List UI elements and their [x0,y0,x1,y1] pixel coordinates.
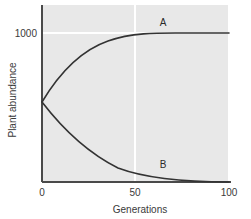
x-axis-title: Generations [113,204,167,215]
y-tick-label-1000: 1000 [15,28,38,39]
x-tick-label-100: 100 [221,187,238,198]
plant-abundance-line-chart: A B 1000 0 50 100 Generations Plant abun… [0,0,251,219]
series-a-label: A [160,17,167,28]
x-tick-label-0: 0 [39,187,45,198]
y-axis-title: Plant abundance [7,62,18,138]
chart-figure: A B 1000 0 50 100 Generations Plant abun… [0,0,251,219]
x-tick-label-50: 50 [129,187,141,198]
series-b-label: B [160,159,167,170]
